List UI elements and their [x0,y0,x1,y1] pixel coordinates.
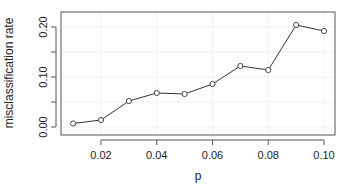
y-tick-label: 0.20 [37,16,49,37]
data-point-marker [98,117,103,122]
y-axis: 0.000.100.20 [37,16,56,137]
x-tick-label: 0.08 [258,149,279,161]
x-tick-label: 0.02 [90,149,111,161]
data-point-marker [182,91,187,96]
line-chart: 0.020.040.060.080.10 0.000.100.20 p misc… [0,0,351,190]
y-tick-label: 0.00 [37,116,49,137]
data-point-marker [71,121,76,126]
x-tick-label: 0.04 [146,149,167,161]
series-line [73,25,324,124]
x-tick-label: 0.06 [202,149,223,161]
data-point-marker [238,63,243,68]
data-point-marker [210,81,215,86]
data-point-marker [294,22,299,27]
plot-frame [61,12,335,135]
y-tick-label: 0.10 [37,66,49,87]
grid-lines [61,12,335,135]
data-point-marker [126,98,131,103]
data-point-marker [154,90,159,95]
x-tick-label: 0.10 [313,149,334,161]
x-axis-label: p [195,169,202,183]
x-axis: 0.020.040.060.080.10 [90,140,334,161]
y-axis-label: misclassification rate [2,17,16,128]
data-point-marker [266,67,271,72]
data-point-marker [321,28,326,33]
